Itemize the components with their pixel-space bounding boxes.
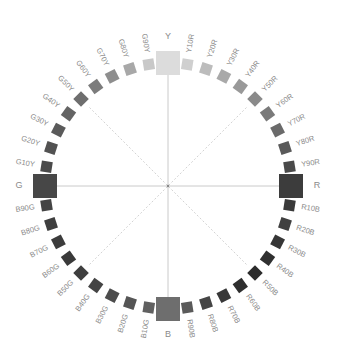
swatch-r30b (270, 234, 285, 249)
swatch-b50g (73, 265, 89, 281)
swatch-r50b (247, 265, 263, 281)
label-r: R (314, 180, 321, 190)
label-g60y: G60Y (74, 58, 93, 79)
label-y10r: Y10R (184, 33, 196, 54)
center-point (167, 185, 169, 187)
label-y30r: Y30R (225, 46, 242, 67)
label-r90b: R90B (185, 319, 197, 339)
label-b40g: B40G (73, 292, 92, 313)
swatch-y50r (247, 91, 263, 107)
label-b30g: B30G (94, 304, 111, 325)
swatch-b90g (40, 199, 53, 212)
label-y50r: Y50R (260, 73, 280, 93)
ncs-colour-circle: Y10RY20RY30RY40RY50RY60RY70RY80RY90RR10B… (0, 0, 337, 358)
swatch-y90r (283, 160, 296, 173)
swatch-b10g (142, 301, 155, 314)
label-b90g: B90G (15, 202, 36, 214)
swatch-y40r (233, 79, 248, 94)
label-b20g: B20G (116, 313, 131, 334)
label-y90r: Y90R (301, 157, 322, 169)
label-g40y: G40Y (41, 91, 62, 110)
label-y: Y (165, 31, 171, 41)
label-y20r: Y20R (205, 38, 220, 59)
swatch-g60y (88, 79, 103, 94)
swatch-r60b (233, 278, 248, 293)
label-g90y: G90Y (140, 33, 152, 53)
label-b10g: B10G (139, 318, 151, 339)
label-y40r: Y40R (243, 58, 262, 79)
label-g30y: G30Y (29, 112, 50, 129)
swatch-b40g (88, 278, 103, 293)
swatch-b70g (51, 234, 66, 249)
label-r40b: R40B (275, 261, 295, 279)
label-g: G (15, 180, 22, 190)
label-r30b: R30B (286, 243, 307, 260)
colour-circle-canvas: Y10RY20RY30RY40RY50RY60RY70RY80RY90RR10B… (0, 0, 337, 358)
label-r80b: R80B (206, 313, 220, 334)
swatch-y20r (199, 62, 213, 76)
axis-guides (55, 73, 281, 299)
swatch-r40b (260, 251, 275, 266)
swatch-y60r (260, 106, 275, 121)
swatch-g20y (44, 141, 58, 155)
swatch-g30y (51, 123, 66, 138)
label-r70b: R70B (226, 304, 243, 325)
label-b50g: B50G (55, 278, 75, 298)
swatch-y80r (278, 141, 292, 155)
swatch-r20b (278, 217, 292, 231)
label-y60r: Y60R (274, 91, 295, 110)
label-y80r: Y80R (295, 134, 316, 149)
swatch-r10b (283, 199, 296, 212)
swatch-g (33, 174, 57, 198)
swatch-y10r (181, 58, 194, 71)
label-r50b: R50B (261, 278, 281, 298)
label-b70g: B70G (28, 243, 49, 260)
label-g70y: G70Y (94, 46, 111, 67)
label-g50y: G50Y (56, 73, 76, 93)
swatch-b80g (44, 217, 58, 231)
swatch-g70y (105, 69, 120, 84)
label-b: B (165, 329, 171, 339)
label-g20y: G20Y (20, 134, 41, 148)
swatch-r80b (199, 296, 213, 310)
swatch-y70r (270, 123, 285, 138)
label-g80y: G80Y (117, 38, 131, 59)
swatch-g40y (61, 106, 76, 121)
label-b80g: B80G (20, 223, 41, 238)
swatch-b30g (105, 288, 120, 303)
swatch-r70b (216, 288, 231, 303)
swatch-b (156, 297, 180, 321)
swatch-b20g (123, 296, 137, 310)
label-r20b: R20B (295, 223, 316, 237)
label-r60b: R60B (244, 292, 262, 312)
swatch-b60g (61, 251, 76, 266)
label-g10y: G10Y (15, 157, 35, 169)
label-b60g: B60G (40, 261, 61, 280)
swatch-r90b (181, 301, 194, 314)
label-y70r: Y70R (286, 111, 307, 128)
swatch-g90y (142, 58, 155, 71)
swatch-g10y (40, 160, 53, 173)
swatch-y30r (216, 69, 231, 84)
swatch-g80y (123, 62, 137, 76)
swatch-r (279, 174, 303, 198)
swatch-g50y (73, 91, 89, 107)
label-r10b: R10B (301, 202, 321, 214)
swatch-y (156, 51, 180, 75)
